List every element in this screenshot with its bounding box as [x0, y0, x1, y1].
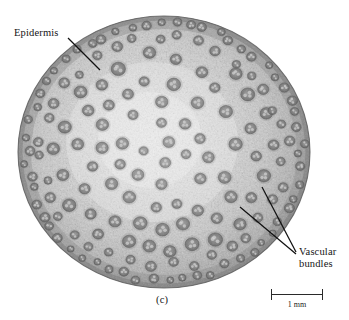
scale-bar-cap-left — [271, 289, 272, 300]
panel-label: (c) — [156, 294, 168, 306]
vascular-bundles-label: Vascular bundles — [299, 246, 349, 270]
scale-bar-cap-right — [322, 289, 323, 300]
epidermis-label: Epidermis — [14, 27, 59, 39]
figure-root: Epidermis Vascular bundles (c) 1 mm — [0, 0, 349, 320]
vascular-bundles-label-line1: Vascular — [299, 246, 349, 258]
scale-bar-rule — [271, 294, 323, 295]
micrograph-image — [0, 0, 349, 320]
vascular-bundles-label-line2: bundles — [299, 258, 349, 270]
scale-bar: 1 mm — [271, 288, 323, 312]
scale-bar-label: 1 mm — [271, 300, 323, 309]
overlay-grain — [0, 0, 349, 320]
stem-cross-section — [0, 0, 349, 320]
